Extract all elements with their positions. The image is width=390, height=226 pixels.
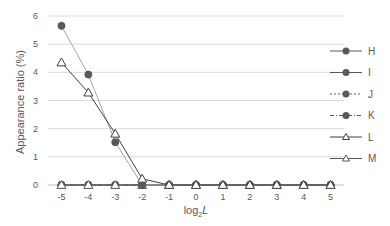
legend-label: H (368, 46, 375, 57)
series-L (57, 58, 335, 188)
series-H (58, 22, 334, 188)
x-tick-label: 3 (274, 192, 279, 202)
x-tick-label: -3 (111, 192, 119, 202)
legend-item-L: L (330, 132, 374, 143)
x-tick-label: -4 (84, 192, 92, 202)
triangle-marker (57, 58, 66, 66)
y-tick-label: 2 (33, 124, 38, 134)
y-tick-label: 3 (33, 96, 38, 106)
y-tick-label: 5 (33, 39, 38, 49)
legend-item-M: M (330, 153, 376, 164)
x-axis-title: log2L (184, 204, 209, 218)
circle-marker (85, 71, 92, 78)
legend-label: I (368, 67, 371, 78)
y-axis-ticks: 0123456 (33, 11, 38, 190)
line-chart: 0123456 -5-4-3-2-1012345 HIJKLM Appearan… (0, 0, 390, 226)
x-tick-label: -5 (57, 192, 65, 202)
x-tick-label: -2 (138, 192, 146, 202)
y-tick-label: 4 (33, 67, 38, 77)
legend-item-I: I (330, 67, 371, 78)
legend-item-J: J (330, 89, 373, 100)
legend-item-K: K (330, 110, 375, 121)
y-axis-title: Appearance ratio (%) (14, 50, 26, 154)
legend: HIJKLM (330, 46, 376, 165)
series-line (61, 26, 330, 185)
x-tick-label: 1 (220, 192, 225, 202)
x-axis-ticks: -5-4-3-2-1012345 (57, 192, 333, 202)
y-tick-label: 6 (33, 11, 38, 21)
circle-marker (112, 139, 119, 146)
x-tick-label: 2 (247, 192, 252, 202)
series-lines (57, 22, 335, 188)
gridlines (48, 16, 344, 185)
x-tick-label: 5 (328, 192, 333, 202)
y-tick-label: 0 (33, 180, 38, 190)
triangle-marker (138, 174, 147, 182)
x-tick-label: -1 (165, 192, 173, 202)
y-tick-label: 1 (33, 152, 38, 162)
legend-item-H: H (330, 46, 375, 57)
circle-marker (58, 22, 65, 29)
legend-label: M (368, 153, 376, 164)
legend-label: J (368, 89, 373, 100)
x-tick-label: 4 (301, 192, 306, 202)
legend-label: K (368, 110, 375, 121)
x-tick-label: 0 (193, 192, 198, 202)
legend-label: L (368, 132, 374, 143)
series-line (61, 62, 330, 185)
